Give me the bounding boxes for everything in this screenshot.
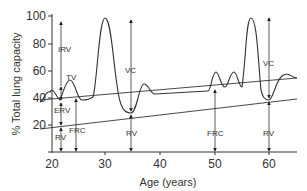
- y-ticks: 100 80 60 40 20: [26, 9, 52, 132]
- rv-baseline: [40, 99, 297, 129]
- x-tick-label: 40: [153, 157, 167, 171]
- y-tick-label: 60: [33, 64, 47, 78]
- rv-label: RV: [263, 129, 275, 138]
- x-tick-label: 50: [208, 157, 222, 171]
- x-axis-title: Age (years): [140, 176, 197, 188]
- y-tick-label: 80: [33, 37, 47, 51]
- y-tick-label: 20: [33, 118, 47, 132]
- x-ticks: 20 30 40 50 60: [45, 152, 276, 171]
- y-tick-label: 100: [26, 9, 46, 23]
- frc-label: FRC: [69, 126, 86, 135]
- chart-svg: 100 80 60 40 20 20 30 40 50 60 Age (year…: [0, 0, 307, 191]
- vc-label: VC: [125, 66, 136, 75]
- rv-label: RV: [55, 133, 67, 142]
- irv-label: IRV: [58, 45, 72, 54]
- tv-label: TV: [66, 73, 77, 82]
- frc-label: FRC: [207, 129, 224, 138]
- x-tick-label: 30: [98, 157, 112, 171]
- erv-label: ERV: [54, 106, 71, 115]
- lung-volume-trace: [40, 18, 297, 113]
- lung-capacity-chart: 100 80 60 40 20 20 30 40 50 60 Age (year…: [0, 0, 307, 191]
- rv-label: RV: [126, 129, 138, 138]
- vc-label: VC: [263, 59, 274, 68]
- x-tick-label: 60: [262, 157, 276, 171]
- x-tick-label: 20: [45, 157, 59, 171]
- y-axis-title: % Total lung capacity: [10, 32, 22, 136]
- y-tick-label: 40: [33, 91, 47, 105]
